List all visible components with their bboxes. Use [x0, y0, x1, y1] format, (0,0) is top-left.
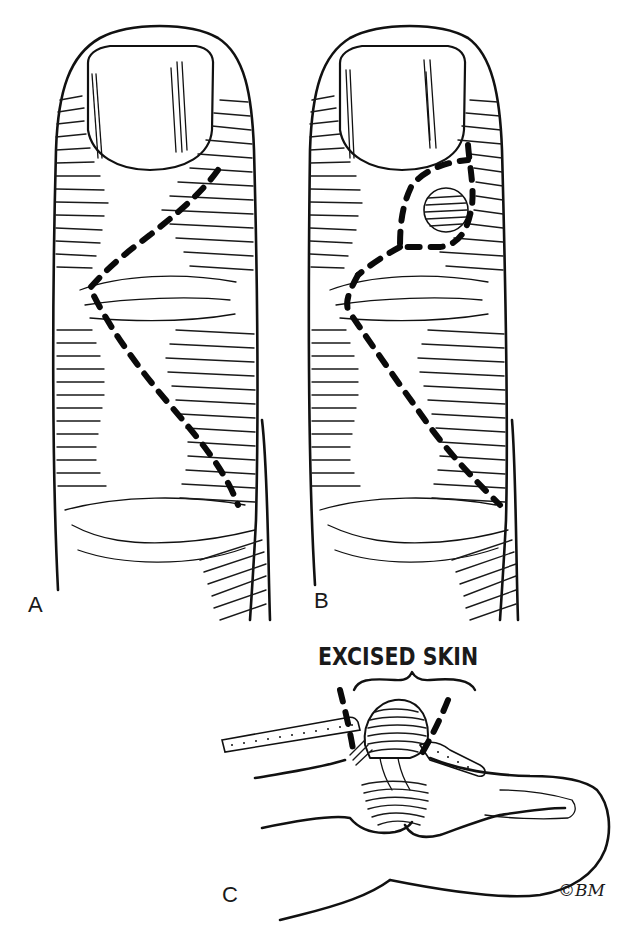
panel-label-c: C	[222, 882, 238, 908]
panel-b-finger	[309, 26, 518, 620]
artist-signature: ©BM	[558, 880, 605, 900]
incision-line-a	[90, 170, 238, 505]
panel-c-lateral-view	[222, 672, 609, 920]
fingernail-a	[88, 46, 213, 170]
dorsal-skin-left	[222, 717, 360, 752]
incision-line-b-branch	[358, 247, 400, 275]
panel-label-a: A	[28, 592, 43, 618]
excised-skin-annotation: EXCISED SKIN	[318, 642, 478, 671]
medical-illustration	[0, 0, 638, 942]
incision-line-b-diagonal	[347, 275, 500, 505]
fingernail-b	[340, 46, 465, 170]
panel-label-b: B	[314, 588, 329, 614]
panel-a-finger	[53, 26, 270, 620]
